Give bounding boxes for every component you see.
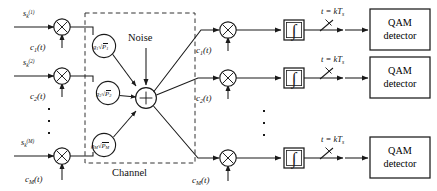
qam-detector-line2: detector	[384, 78, 417, 90]
noise-label: Noise	[128, 33, 153, 44]
rx-vertical-ellipsis-icon	[262, 110, 266, 136]
sampler-switch-2	[304, 68, 368, 80]
tx-to-gain-wires	[70, 27, 93, 156]
channel-label: Channel	[112, 168, 147, 179]
qam-detector-label-1: QAM detector	[370, 9, 430, 50]
rx-multiplier-2	[220, 70, 236, 86]
gain-label-1: g1√P1	[93, 43, 108, 50]
qam-detector-line1: QAM	[388, 17, 412, 29]
tx-input-label-2: sk(2)	[23, 59, 35, 67]
tx-carrier-label-3: cM(t)	[25, 175, 42, 184]
tx-input-label-1: sk(1)	[23, 10, 35, 18]
tx-multiplier-3	[54, 148, 70, 164]
gain-label-3: gM√PM	[91, 142, 109, 149]
tx-carrier-label-2: c2(t)	[30, 92, 45, 101]
sampler-switch-3	[304, 148, 368, 160]
summing-node	[136, 88, 157, 109]
qam-detector-line1: QAM	[388, 65, 412, 77]
tx-input-label-3: sk(M)	[21, 139, 34, 147]
rx-carrier-label-2: c2(t)	[196, 94, 211, 103]
sampler-switch-1	[304, 20, 368, 32]
qam-detector-line2: detector	[384, 158, 417, 170]
gain-label-2: g2√P2	[96, 90, 111, 97]
sample-label-3: t = kTs	[321, 135, 344, 144]
qam-detector-line2: detector	[384, 30, 417, 42]
tx-multiplier-1	[54, 19, 70, 35]
qam-detector-label-2: QAM detector	[370, 57, 430, 98]
qam-detector-label-3: QAM detector	[370, 137, 430, 178]
tx-carrier-label-1: c1(t)	[30, 43, 45, 52]
rx-carrier-label-1: c1(t)	[196, 46, 211, 55]
rx-to-integrator-wires	[236, 30, 281, 158]
cdma-qam-block-diagram: ∫ ∫ ∫ sk(1) sk(2) sk(M) c1(t) c2(t) cM(t…	[0, 0, 437, 191]
rx-multiplier-3	[220, 150, 236, 166]
sample-label-2: t = kTs	[321, 55, 344, 64]
tx-multiplier-2	[54, 68, 70, 84]
rx-multiplier-1	[220, 22, 236, 38]
qam-detector-line1: QAM	[388, 145, 412, 157]
tx-vertical-ellipsis-icon	[47, 108, 51, 134]
rx-carrier-label-3: cM(t)	[192, 176, 209, 185]
sample-label-1: t = kTs	[321, 7, 344, 16]
